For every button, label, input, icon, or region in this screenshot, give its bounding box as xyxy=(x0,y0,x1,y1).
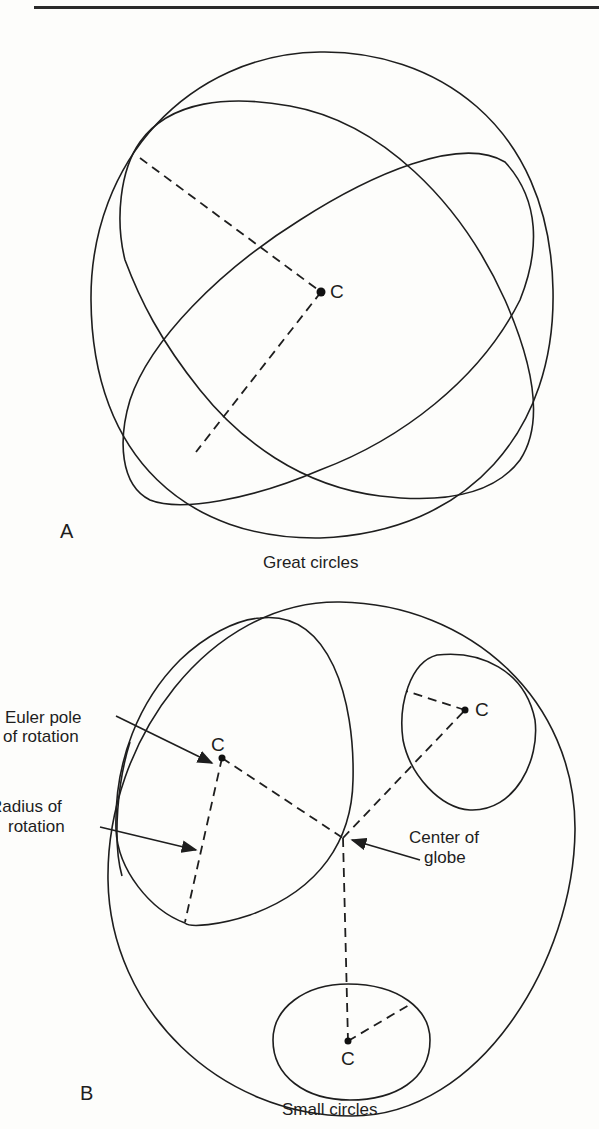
center-dot-a xyxy=(317,288,326,297)
pole-to-center-line-bottom xyxy=(343,838,348,1041)
pole-label-right: C xyxy=(475,699,489,721)
radius-line-bottom xyxy=(348,1005,409,1041)
panel-a-letter: A xyxy=(60,520,73,543)
radius-line-left xyxy=(185,758,222,922)
pole-label-left: C xyxy=(211,734,225,756)
pole-label-bottom: C xyxy=(341,1048,355,1070)
small-circle-left xyxy=(116,618,353,926)
panel-b-caption: Small circles xyxy=(282,1100,377,1120)
panel-b-small-circles xyxy=(100,602,575,1116)
globe-outline-b xyxy=(108,602,575,1116)
panel-b-letter: B xyxy=(80,1082,93,1105)
small-circle-bottom xyxy=(273,984,430,1100)
euler-pole-label-2: of rotation xyxy=(3,727,79,746)
center-label-a: C xyxy=(330,281,344,303)
radius-line-a-upper xyxy=(140,158,321,292)
pole-dot-bottom xyxy=(345,1038,352,1045)
panel-a-great-circles xyxy=(91,52,553,538)
radius-label-2: rotation xyxy=(8,817,65,836)
radius-line-right xyxy=(406,691,465,710)
pole-dot-right xyxy=(462,707,469,714)
radius-arrow xyxy=(100,827,196,850)
euler-pole-label-1: Euler pole xyxy=(5,708,82,727)
center-globe-label-1: Center of xyxy=(409,828,479,847)
radius-line-a-lower xyxy=(196,292,321,452)
radius-label-1: Radius of xyxy=(0,797,62,816)
pole-to-center-line-left xyxy=(222,758,343,838)
pole-to-center-line-right xyxy=(343,710,465,838)
great-circle-2 xyxy=(123,153,533,504)
panel-a-caption: Great circles xyxy=(263,553,358,573)
center-globe-label-2: globe xyxy=(424,848,466,867)
great-circle-1 xyxy=(120,101,534,499)
